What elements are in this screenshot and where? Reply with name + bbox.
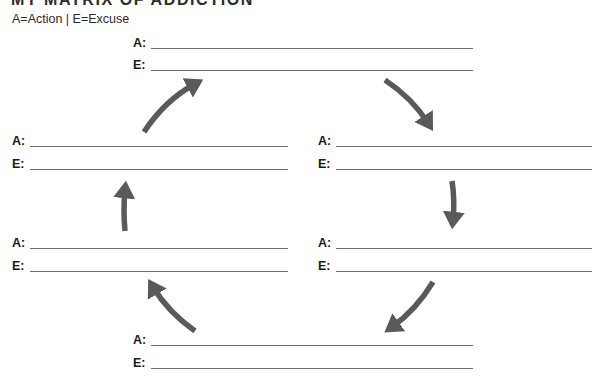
action-blank-line[interactable] <box>151 345 473 346</box>
excuse-blank-line[interactable] <box>30 271 288 272</box>
action-label: A: <box>318 134 331 148</box>
excuse-blank-line[interactable] <box>30 169 288 170</box>
legend-subtitle: A=Action | E=Excuse <box>12 12 129 26</box>
excuse-blank-line[interactable] <box>336 271 592 272</box>
action-row: A: <box>133 36 473 52</box>
action-blank-line[interactable] <box>151 48 473 49</box>
action-row: A: <box>12 134 288 150</box>
excuse-label: E: <box>318 157 331 171</box>
pair-left-lower: A: E: <box>12 236 288 276</box>
action-blank-line[interactable] <box>336 146 592 147</box>
action-blank-line[interactable] <box>30 248 288 249</box>
pair-right-lower: A: E: <box>318 236 592 276</box>
excuse-row: E: <box>318 157 592 173</box>
action-blank-line[interactable] <box>30 146 288 147</box>
action-label: A: <box>133 333 146 347</box>
excuse-row: E: <box>12 157 288 173</box>
action-label: A: <box>318 236 331 250</box>
arrow-up-left-icon <box>153 287 195 331</box>
excuse-blank-line[interactable] <box>151 70 473 71</box>
excuse-label: E: <box>133 58 146 72</box>
action-label: A: <box>12 236 25 250</box>
action-row: A: <box>12 236 288 252</box>
excuse-blank-line[interactable] <box>336 169 592 170</box>
arrow-up-right-icon <box>144 84 195 132</box>
excuse-blank-line[interactable] <box>151 368 473 369</box>
excuse-label: E: <box>12 259 25 273</box>
action-blank-line[interactable] <box>336 248 592 249</box>
pair-bottom: A: E: <box>133 333 473 373</box>
excuse-row: E: <box>12 259 288 275</box>
action-label: A: <box>133 36 146 50</box>
excuse-label: E: <box>12 157 25 171</box>
arrow-down-icon <box>452 181 454 220</box>
arrow-up-icon <box>124 190 125 231</box>
action-row: A: <box>133 333 473 349</box>
excuse-label: E: <box>133 356 146 370</box>
pair-left-upper: A: E: <box>12 134 288 174</box>
arrow-down-right-icon <box>385 80 428 123</box>
action-row: A: <box>318 134 592 150</box>
action-row: A: <box>318 236 592 252</box>
excuse-row: E: <box>133 356 473 372</box>
excuse-row: E: <box>133 58 473 74</box>
pair-right-upper: A: E: <box>318 134 592 174</box>
action-label: A: <box>12 134 25 148</box>
pair-top: A: E: <box>133 36 473 76</box>
excuse-label: E: <box>318 259 331 273</box>
excuse-row: E: <box>318 259 592 275</box>
arrow-down-left-icon <box>392 282 433 327</box>
page-title: MY MATRIX OF ADDICTION <box>11 0 254 9</box>
